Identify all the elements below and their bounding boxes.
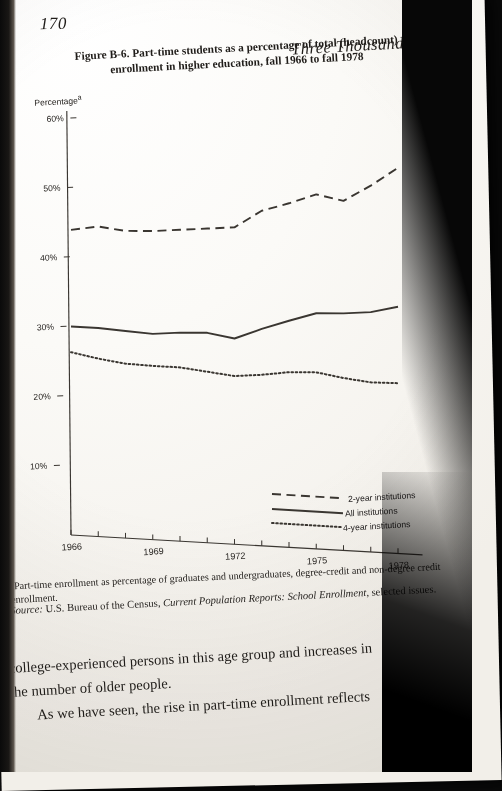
body-text: college-experienced persons in this age … xyxy=(8,633,431,728)
svg-text:1972: 1972 xyxy=(225,551,246,562)
svg-text:30%: 30% xyxy=(37,322,55,333)
svg-text:10%: 10% xyxy=(30,461,48,472)
chart-svg: 10%20%30%40%50%60%19661969197219751978 xyxy=(0,0,472,600)
svg-text:1969: 1969 xyxy=(143,546,164,557)
source-label: Source: xyxy=(10,603,43,616)
svg-text:50%: 50% xyxy=(43,183,61,194)
source-text-2: selected issues. xyxy=(369,583,437,597)
svg-text:20%: 20% xyxy=(33,391,51,402)
figure-chart: Percentagea 10%20%30%40%50%60%1966196919… xyxy=(0,0,472,600)
svg-text:60%: 60% xyxy=(46,113,64,124)
svg-text:40%: 40% xyxy=(40,252,58,263)
svg-text:1966: 1966 xyxy=(61,541,82,552)
